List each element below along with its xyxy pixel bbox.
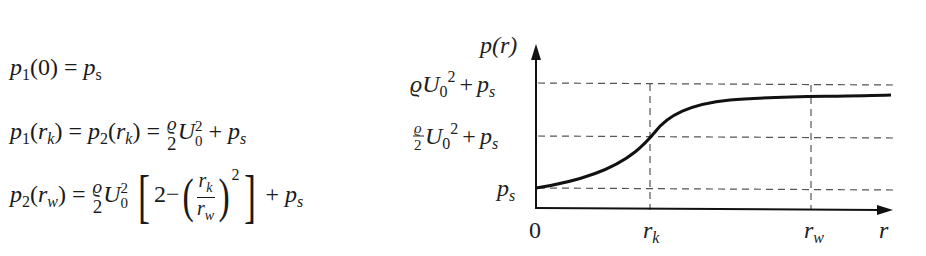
x-axis-label: r <box>879 217 889 243</box>
ref-line-ps <box>538 188 893 190</box>
tick-ps: ps <box>495 175 515 204</box>
tick-mid: ϱ 2 U02+ps <box>413 120 498 153</box>
axes <box>536 56 880 210</box>
rk-label: rk <box>643 217 660 246</box>
tick-mid-rho: ϱ <box>414 120 422 136</box>
ref-line-top <box>538 83 893 85</box>
y-axis-arrow-icon <box>531 44 541 60</box>
y-axis-label: p(r) <box>478 32 517 58</box>
x-axis-arrow-icon <box>877 205 893 215</box>
tick-mid-rest: U02+ps <box>425 120 498 152</box>
x-axis <box>536 208 880 210</box>
origin-label: 0 <box>529 217 541 243</box>
tick-mid-two: 2 <box>414 137 422 153</box>
pressure-chart: p(r) 0 rk rw r ps ϱ 2 U02+ps ϱU02+ps <box>0 0 926 256</box>
pressure-curve <box>536 95 891 188</box>
ref-line-mid <box>538 136 893 138</box>
tick-top: ϱU02+ps <box>410 68 495 100</box>
rw-label: rw <box>804 217 824 246</box>
